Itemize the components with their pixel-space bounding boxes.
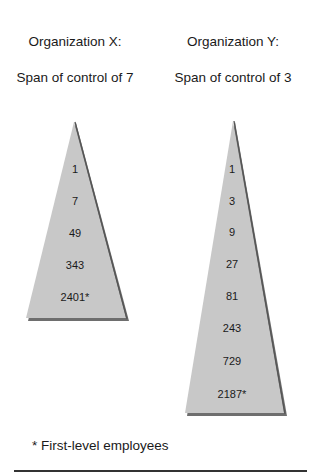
org-x-level-3: 49: [45, 227, 105, 239]
org-x-level-5: 2401*: [45, 291, 105, 303]
org-x-level-2: 7: [45, 195, 105, 207]
org-y-level-5: 81: [202, 290, 262, 302]
org-y-level-1: 1: [202, 163, 262, 175]
org-y-level-3: 9: [202, 226, 262, 238]
org-x-level-4: 343: [45, 259, 105, 271]
org-y-level-8: 2187*: [202, 388, 262, 400]
footnote: * First-level employees: [32, 438, 169, 453]
org-x-level-1: 1: [45, 163, 105, 175]
org-y-level-6: 243: [202, 322, 262, 334]
org-y-level-7: 729: [202, 355, 262, 367]
bottom-rule: [14, 470, 307, 472]
org-y-level-2: 3: [202, 195, 262, 207]
org-y-level-4: 27: [202, 258, 262, 270]
